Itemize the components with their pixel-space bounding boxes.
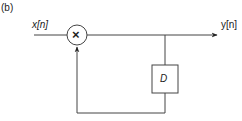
multiply-icon: × <box>72 28 80 41</box>
delay-label: D <box>160 74 167 84</box>
input-label: x[n] <box>32 20 48 30</box>
panel-label: (b) <box>1 3 13 13</box>
output-label: y[n] <box>221 20 237 30</box>
